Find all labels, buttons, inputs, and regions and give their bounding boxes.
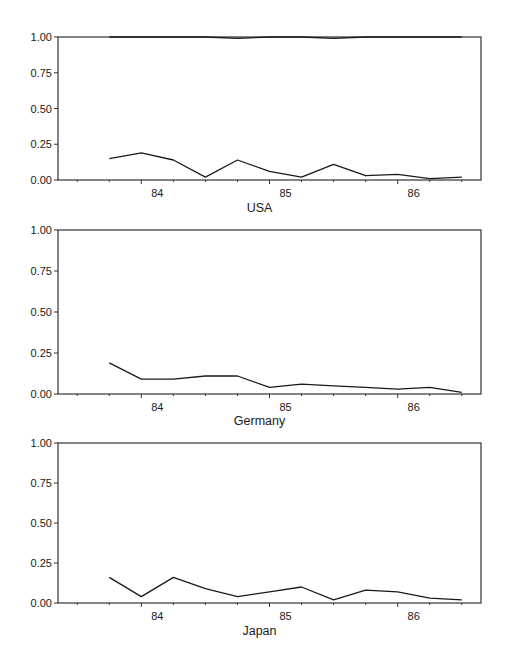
chart-panel-japan: 1.000.750.500.250.00848586Japan	[31, 437, 481, 638]
x-tick-label: 84	[151, 187, 163, 199]
plot-frame	[58, 37, 481, 180]
chart-panel-usa: 1.000.750.500.250.00848586USA	[31, 31, 481, 215]
y-tick-label: 0.00	[31, 597, 52, 609]
y-tick-label: 0.75	[31, 67, 52, 79]
x-tick-label: 86	[408, 187, 420, 199]
y-tick-label: 0.00	[31, 388, 52, 400]
x-tick-label: 86	[408, 610, 420, 622]
x-tick-label: 84	[151, 610, 163, 622]
y-tick-label: 0.50	[31, 103, 52, 115]
y-tick-label: 0.50	[31, 517, 52, 529]
data-line-lower	[109, 153, 462, 179]
y-tick-label: 0.00	[31, 174, 52, 186]
y-tick-label: 0.25	[31, 347, 52, 359]
y-tick-label: 1.00	[31, 224, 52, 236]
chart-figure: 1.000.750.500.250.00848586USA1.000.750.5…	[0, 0, 505, 668]
x-tick-label: 85	[279, 401, 291, 413]
data-line-series	[109, 577, 462, 599]
y-tick-label: 0.25	[31, 138, 52, 150]
chart-panel-germany: 1.000.750.500.250.00848586Germany	[31, 224, 481, 428]
x-tick-label: 84	[151, 401, 163, 413]
panel-label: USA	[247, 201, 273, 215]
panel-label: Germany	[234, 414, 286, 428]
y-tick-label: 0.75	[31, 477, 52, 489]
data-line-series	[109, 363, 462, 393]
x-tick-label: 85	[279, 187, 291, 199]
data-line-upper	[109, 37, 462, 38]
y-tick-label: 0.25	[31, 557, 52, 569]
y-tick-label: 0.75	[31, 265, 52, 277]
x-tick-label: 85	[279, 610, 291, 622]
y-tick-label: 0.50	[31, 306, 52, 318]
plot-frame	[58, 443, 481, 603]
y-tick-label: 1.00	[31, 437, 52, 449]
panel-label: Japan	[242, 624, 276, 638]
x-tick-label: 86	[408, 401, 420, 413]
y-tick-label: 1.00	[31, 31, 52, 43]
